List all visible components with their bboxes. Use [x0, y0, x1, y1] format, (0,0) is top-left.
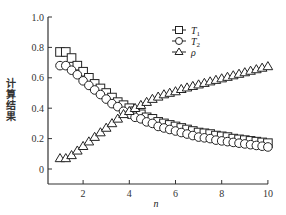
y-tick-label: 0 [39, 164, 44, 175]
axes: 00.20.40.60.81.0246810 [32, 12, 273, 200]
x-tick-label: 6 [173, 188, 178, 199]
chart-plot: 00.20.40.60.81.0246810 T1T2ρ n [0, 0, 286, 215]
x-tick-label: 10 [263, 188, 273, 199]
legend-item-rho: ρ [172, 47, 196, 58]
y-tick-label: 0.8 [32, 42, 45, 53]
data-series [55, 48, 273, 162]
legend-item-T2: T2 [172, 36, 201, 49]
x-tick-label: 8 [219, 188, 224, 199]
y-tick-label: 1.0 [32, 12, 45, 23]
x-axis-label: n [154, 198, 159, 209]
svg-text:ρ: ρ [190, 47, 196, 58]
x-tick-label: 2 [81, 188, 86, 199]
y-tick-label: 0.6 [32, 72, 45, 83]
y-tick-label: 0.2 [32, 133, 45, 144]
legend: T1T2ρ [172, 25, 201, 58]
y-tick-label: 0.4 [32, 103, 45, 114]
x-tick-label: 4 [127, 188, 132, 199]
